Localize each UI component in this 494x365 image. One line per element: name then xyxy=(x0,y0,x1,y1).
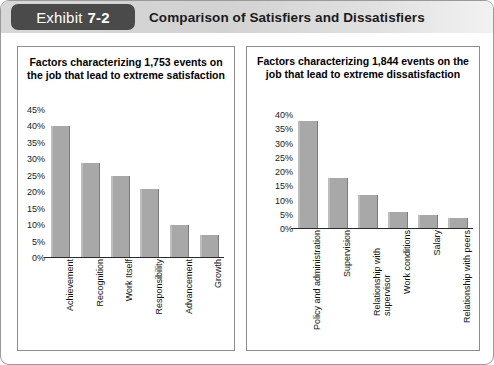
y-axis-tick: 10% xyxy=(27,220,45,230)
chart-title-satisfiers: Factors characterizing 1,753 events on t… xyxy=(26,56,226,82)
bar xyxy=(111,176,130,258)
y-axis-tick: 45% xyxy=(27,105,45,115)
x-axis-label: Achievement xyxy=(65,259,75,311)
bar xyxy=(170,225,189,258)
bar xyxy=(51,126,70,258)
y-axis-tick: 20% xyxy=(27,187,45,197)
y-axis-labels-satisfiers: 45%40%35%30%25%20%15%10%5%0% xyxy=(15,110,45,258)
x-axis-labels-dissatisfiers: Policy and administrationSupervisionRela… xyxy=(293,230,473,348)
y-axis-tick: 35% xyxy=(275,124,293,134)
exhibit-figure: Exhibit 7-2 Comparison of Satisfiers and… xyxy=(0,0,494,365)
x-axis-line-satisfiers xyxy=(44,257,224,258)
exhibit-number: 7-2 xyxy=(88,9,110,26)
x-axis-label: Policy and administration xyxy=(312,230,322,330)
bar xyxy=(200,235,219,258)
y-axis-tick: 25% xyxy=(27,171,45,181)
y-axis-tick: 35% xyxy=(27,138,45,148)
bar-series-satisfiers xyxy=(46,110,224,258)
bar xyxy=(140,189,159,258)
x-axis-label: Relationship with supervisor xyxy=(372,230,392,316)
chart-title-dissatisfiers: Factors characterizing 1,844 events on t… xyxy=(255,55,471,81)
y-axis-tick: 15% xyxy=(27,204,45,214)
bar-series-dissatisfiers xyxy=(293,115,473,229)
exhibit-title: Comparison of Satisfiers and Dissatisfie… xyxy=(149,4,425,30)
exhibit-tag: Exhibit 7-2 xyxy=(11,4,135,30)
x-axis-label: Work Itself xyxy=(124,259,134,301)
bar xyxy=(328,178,348,229)
x-axis-labels-satisfiers: AchievementRecognitionWork ItselfRespons… xyxy=(46,259,224,347)
x-axis-line-dissatisfiers xyxy=(291,228,473,229)
y-axis-tick: 40% xyxy=(27,121,45,131)
x-axis-label: Salary xyxy=(432,230,442,256)
x-axis-label: Recognition xyxy=(95,259,105,307)
bar xyxy=(358,195,378,229)
x-axis-label: Relationship with peers xyxy=(462,230,472,323)
bar xyxy=(298,121,318,229)
y-axis-tick: 0% xyxy=(280,224,293,234)
x-axis-label: Responsibility xyxy=(154,259,164,315)
y-axis-tick: 40% xyxy=(275,110,293,120)
x-axis-label: Advancement xyxy=(184,259,194,314)
bar xyxy=(388,212,408,229)
y-axis-tick: 30% xyxy=(27,154,45,164)
y-axis-tick: 10% xyxy=(275,196,293,206)
x-axis-label: Supervision xyxy=(342,230,352,277)
exhibit-label: Exhibit xyxy=(36,9,82,26)
bar xyxy=(418,215,438,229)
y-axis-tick: 5% xyxy=(280,210,293,220)
plot-area-dissatisfiers xyxy=(293,115,473,229)
y-axis-tick: 25% xyxy=(275,153,293,163)
x-axis-label: Growth xyxy=(213,259,223,288)
x-axis-label: Work conditions xyxy=(402,230,412,294)
y-axis-tick: 5% xyxy=(32,237,45,247)
exhibit-header: Exhibit 7-2 Comparison of Satisfiers and… xyxy=(1,1,494,33)
y-axis-tick: 30% xyxy=(275,139,293,149)
y-axis-tick: 15% xyxy=(275,181,293,191)
y-axis-labels-dissatisfiers: 40%35%30%25%20%15%10%5%0% xyxy=(263,115,293,229)
y-axis-tick: 0% xyxy=(32,253,45,263)
bar xyxy=(81,163,100,258)
plot-area-satisfiers xyxy=(46,110,224,258)
y-axis-tick: 20% xyxy=(275,167,293,177)
